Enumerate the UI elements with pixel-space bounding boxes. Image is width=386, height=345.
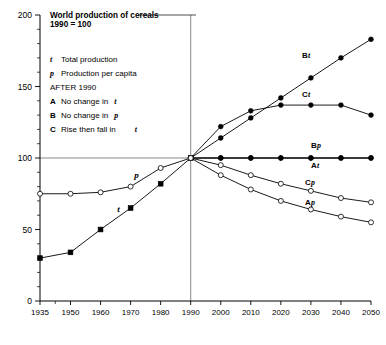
data-point-Ct: [339, 103, 344, 108]
data-point-Ct: [278, 103, 283, 108]
data-point-t: [128, 206, 133, 211]
curve-label-At: At: [311, 161, 320, 170]
data-point-Ap: [188, 156, 193, 161]
data-point-t: [68, 250, 73, 255]
y-tick-label: 100: [18, 153, 32, 163]
legend-label-text: Rise then fall in: [61, 125, 116, 134]
data-point-At: [218, 156, 223, 161]
data-point-Bt: [339, 56, 344, 61]
x-tick-label: 1990: [182, 308, 200, 317]
curve-label-Ap-letter: A: [305, 198, 311, 207]
x-tick-label: 2020: [272, 308, 290, 317]
data-point-Ct: [248, 108, 253, 113]
legend-label: AFTER 1990: [50, 83, 97, 92]
curve-label-Ap: Ap: [305, 198, 315, 207]
data-point-t: [38, 256, 43, 261]
data-point-At: [339, 156, 344, 161]
data-point-Ap: [308, 207, 313, 212]
curve-label-Ct-letter: C: [302, 90, 308, 99]
data-point-Cp: [278, 181, 283, 186]
y-tick-label: 0: [27, 296, 32, 306]
legend-label: Production per capita: [61, 69, 137, 78]
data-point-At: [278, 156, 283, 161]
y-tick-label: 150: [18, 82, 32, 92]
data-point-At: [369, 156, 374, 161]
data-point-t: [158, 181, 163, 186]
data-point-p: [128, 184, 133, 189]
curve-label-Ct: Ct: [302, 90, 311, 99]
data-point-Bt: [278, 96, 283, 101]
chart-background: [0, 0, 386, 345]
y-tick-label: 200: [18, 10, 32, 20]
chart-subtitle: 1990 = 100: [50, 20, 92, 29]
data-point-t: [98, 227, 103, 232]
legend-symbol: A: [50, 97, 56, 106]
legend-label: Total production: [61, 55, 117, 64]
data-point-Bt: [218, 136, 223, 141]
data-point-Bt: [309, 76, 314, 81]
x-tick-label: 2030: [302, 308, 320, 317]
legend-symbol: p: [49, 69, 54, 78]
chart-canvas: 050100150200 193519501960197019801990200…: [0, 0, 386, 345]
x-tick-label: 2050: [362, 308, 380, 317]
data-point-Ct: [218, 124, 223, 129]
legend-item-p: pProduction per capita: [49, 69, 137, 78]
data-point-Ap: [248, 187, 253, 192]
data-point-Ct: [369, 113, 374, 118]
legend-item-after-1990: AFTER 1990: [50, 83, 97, 92]
curve-label-Cp-letter: C: [305, 178, 311, 187]
x-tick-label: 1960: [92, 308, 110, 317]
legend-item-t: tTotal production: [50, 55, 117, 64]
curve-label-Cp: Cp: [305, 178, 315, 187]
curve-label-Cp-suffix: p: [310, 178, 315, 187]
data-point-At: [309, 156, 314, 161]
curve-label-Bp-letter: B: [311, 141, 317, 150]
data-point-p: [158, 166, 163, 171]
x-tick-label: 2000: [212, 308, 230, 317]
curve-label-Bp: Bp: [311, 141, 321, 150]
x-tick-label: 1935: [31, 308, 49, 317]
legend-symbol: C: [50, 125, 56, 134]
data-point-Cp: [369, 200, 374, 205]
data-point-Ap: [218, 173, 223, 178]
data-point-At: [248, 156, 253, 161]
x-tick-label: 1980: [152, 308, 170, 317]
data-point-p: [68, 191, 73, 196]
legend-symbol: B: [50, 111, 56, 120]
chart-title: World production of cereals: [50, 11, 159, 20]
legend-label-symbol: p: [113, 111, 118, 120]
curve-label-Bt-letter: B: [302, 51, 308, 60]
legend-label-text: No change in: [61, 111, 108, 120]
legend-item-a: ANo change in t: [50, 97, 117, 106]
curve-label-At-letter: A: [311, 161, 317, 170]
data-point-Bt: [369, 37, 374, 42]
legend-item-b: BNo change in p: [50, 111, 118, 120]
curve-label-Ap-suffix: p: [310, 198, 315, 207]
curve-label-Bt: Bt: [302, 51, 311, 60]
data-point-Ap: [369, 220, 374, 225]
data-point-Ct: [309, 103, 314, 108]
y-tick-label: 50: [23, 225, 33, 235]
data-point-Cp: [338, 196, 343, 201]
x-tick-label: 1950: [62, 308, 80, 317]
legend-label-text: No change in: [61, 97, 108, 106]
x-tick-label: 1970: [122, 308, 140, 317]
chart-figure: 050100150200 193519501960197019801990200…: [0, 0, 386, 345]
curve-label-Bp-suffix: p: [316, 141, 321, 150]
x-tick-label: 2040: [332, 308, 350, 317]
x-tick-label: 2010: [242, 308, 260, 317]
inline-label-p: p: [133, 170, 139, 180]
data-point-Bt: [248, 116, 253, 121]
data-point-p: [98, 190, 103, 195]
data-point-Cp: [248, 173, 253, 178]
data-point-Cp: [308, 188, 313, 193]
data-point-Ap: [278, 198, 283, 203]
data-point-Cp: [218, 163, 223, 168]
data-point-p: [38, 191, 43, 196]
data-point-Ap: [338, 214, 343, 219]
